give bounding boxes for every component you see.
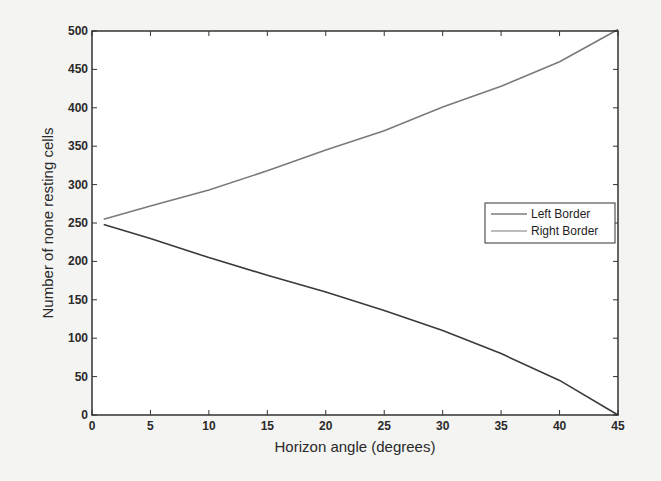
- y-tick-label: 150: [68, 293, 88, 307]
- x-axis-label: Horizon angle (degrees): [275, 438, 436, 455]
- y-tick-label: 500: [68, 24, 88, 38]
- y-tick-label: 50: [75, 370, 89, 384]
- legend: Left Border Right Border: [485, 203, 615, 243]
- y-tick-label: 250: [68, 216, 88, 230]
- x-tick-label: 25: [378, 419, 392, 433]
- x-tick-label: 40: [553, 419, 567, 433]
- x-tick-label: 15: [261, 419, 275, 433]
- line-chart: 051015202530354045 050100150200250300350…: [0, 0, 661, 481]
- legend-label-left-border: Left Border: [531, 207, 590, 221]
- y-tick-label: 450: [68, 62, 88, 76]
- x-tick-label: 30: [436, 419, 450, 433]
- y-tick-label: 400: [68, 101, 88, 115]
- y-axis-label: Number of none resting cells: [39, 128, 56, 319]
- x-tick-label: 20: [319, 419, 333, 433]
- y-tick-label: 100: [68, 331, 88, 345]
- x-tick-label: 10: [202, 419, 216, 433]
- y-tick-label: 0: [81, 408, 88, 422]
- x-tick-label: 0: [89, 419, 96, 433]
- x-tick-label: 45: [611, 419, 625, 433]
- legend-label-right-border: Right Border: [531, 224, 598, 238]
- y-tick-label: 300: [68, 178, 88, 192]
- y-tick-label: 350: [68, 139, 88, 153]
- x-tick-label: 35: [494, 419, 508, 433]
- y-tick-label: 200: [68, 254, 88, 268]
- x-tick-label: 5: [147, 419, 154, 433]
